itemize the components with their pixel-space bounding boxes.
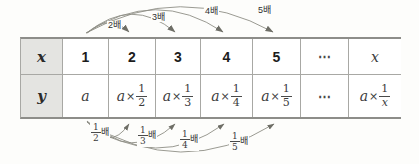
label-div-2: 12 배 xyxy=(90,122,110,144)
label-times-4: 4배 xyxy=(204,7,219,16)
fraction: 12 xyxy=(136,83,147,109)
fraction: 13 xyxy=(182,83,193,109)
value-table: x 1 2 3 4 5 ⋯ x y a a × 12 a × 13 a × 14… xyxy=(20,37,401,119)
y-value-a-xth: a × 1x xyxy=(349,75,401,117)
y-value-a-fifth: a × 15 xyxy=(253,75,301,117)
x-value-3: 3 xyxy=(156,39,201,75)
fraction: 15 xyxy=(230,131,240,153)
row-header-y: y xyxy=(21,75,63,117)
label-times-3: 3배 xyxy=(151,13,166,22)
times-sign: × xyxy=(172,90,181,103)
math-var: a xyxy=(211,88,219,104)
fraction: 12 xyxy=(91,122,101,144)
x-value-4: 4 xyxy=(201,39,253,75)
y-value-a-third: a × 13 xyxy=(156,75,201,117)
x-ellipsis: ⋯ xyxy=(301,39,349,75)
times-sign: × xyxy=(126,90,135,103)
label-times-2: 2배 xyxy=(107,21,122,30)
fraction: 14 xyxy=(180,129,190,151)
x-value-x: x xyxy=(349,39,401,75)
y-value-a-quarter: a × 14 xyxy=(201,75,253,117)
y-value-a: a xyxy=(63,75,109,117)
math-var: a xyxy=(360,88,368,104)
x-value-5: 5 xyxy=(253,39,301,75)
x-value-2: 2 xyxy=(109,39,156,75)
y-value-a-half: a × 12 xyxy=(109,75,156,117)
fraction: 13 xyxy=(138,125,148,147)
inverse-proportion-diagram: x 1 2 3 4 5 ⋯ x y a a × 12 a × 13 a × 14… xyxy=(0,0,419,164)
fraction: 1x xyxy=(379,83,390,109)
math-var: a xyxy=(117,88,125,104)
label-times-5: 5배 xyxy=(257,6,272,15)
label-div-4: 14 배 xyxy=(179,129,199,151)
y-ellipsis: ⋯ xyxy=(301,75,349,117)
times-sign: × xyxy=(369,90,378,103)
math-var: a xyxy=(163,88,171,104)
times-sign: × xyxy=(221,90,230,103)
label-div-5: 15 배 xyxy=(229,131,249,153)
times-sign: × xyxy=(271,90,280,103)
fraction: 15 xyxy=(281,83,292,109)
row-header-x: x xyxy=(21,39,63,75)
label-div-3: 13 배 xyxy=(137,125,157,147)
x-value-1: 1 xyxy=(63,39,109,75)
math-var: a xyxy=(261,88,269,104)
fraction: 14 xyxy=(231,83,242,109)
